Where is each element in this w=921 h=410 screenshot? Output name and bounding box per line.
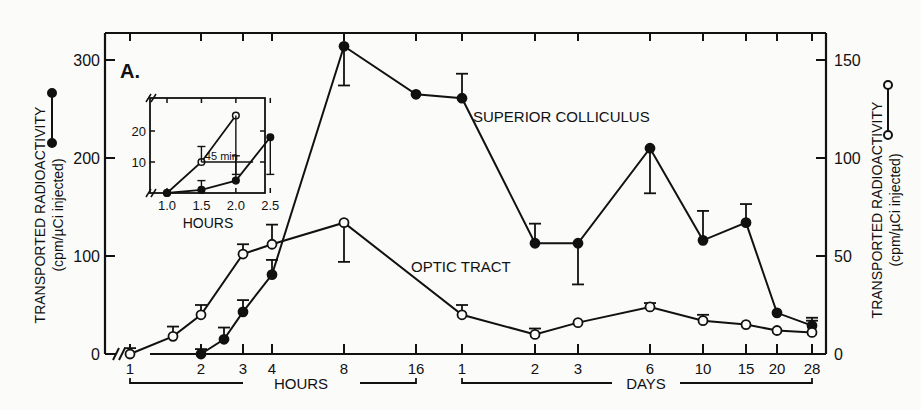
inset-frame	[150, 98, 265, 193]
x-tick-label: 2	[197, 360, 205, 377]
data-point	[458, 310, 467, 319]
x-tick-label: 16	[408, 360, 425, 377]
series-line	[201, 46, 812, 354]
inset-y-label: 10	[132, 155, 146, 170]
left-tick-label: 300	[73, 52, 100, 69]
data-point	[574, 239, 583, 248]
panel-label: A.	[120, 60, 140, 82]
inset-x-label: 2.5	[261, 198, 279, 213]
inset-x-label: 1.0	[158, 198, 176, 213]
data-point	[197, 310, 206, 319]
x-tick-label: 3	[239, 360, 247, 377]
left-axis-title: TRANSPORTED RADIOACTIVITY (cpm/µCi injec…	[32, 106, 66, 323]
x-tick-label: 15	[738, 360, 755, 377]
inset-x-label: 1.5	[192, 198, 210, 213]
data-point	[699, 236, 708, 245]
x-tick-label: 2	[531, 360, 539, 377]
filled-marker-key	[48, 89, 56, 147]
x-tick-label: 20	[769, 360, 786, 377]
data-point	[239, 307, 248, 316]
data-point	[340, 42, 349, 51]
open-marker-key	[884, 81, 892, 139]
inset-break-marks	[146, 94, 156, 197]
data-point	[412, 90, 421, 99]
right-tick-label: 150	[834, 52, 861, 69]
data-point	[268, 270, 277, 279]
data-point	[773, 326, 782, 335]
inset-chart: 1.01.52.02.51020HOURS45 min	[132, 94, 280, 231]
days-label: DAYS	[626, 375, 666, 392]
inset-point	[164, 190, 171, 197]
x-tick-label: 1	[126, 360, 134, 377]
right-tick-label: 100	[834, 150, 861, 167]
superior-colliculus-series	[195, 42, 818, 359]
optic-tract-label: OPTIC TRACT	[411, 258, 511, 275]
series-line	[130, 223, 812, 354]
right-axis-title-line2: (cpm/µCi injected)	[887, 153, 903, 266]
inset-sc-line	[167, 137, 270, 193]
inset-y-label: 20	[132, 124, 146, 139]
data-point	[574, 318, 583, 327]
left-tick-label: 200	[73, 150, 100, 167]
right-axis-title-line1: TRANSPORTED RADIOACTIVITY	[869, 101, 885, 318]
left-tick-label: 0	[91, 346, 100, 363]
data-point	[340, 218, 349, 227]
data-point	[197, 350, 206, 359]
hours-label: HOURS	[274, 375, 328, 392]
left-axis-title-line2: (cpm/µCi injected)	[50, 158, 66, 271]
right-axis-ticks: 050100150	[816, 52, 861, 363]
data-point	[458, 94, 467, 103]
x-tick-label: 8	[340, 360, 348, 377]
left-axis-ticks: 0100200300	[73, 52, 115, 363]
data-point	[268, 240, 277, 249]
superior-colliculus-label: SUPERIOR COLLICULUS	[473, 108, 650, 125]
right-tick-label: 0	[834, 346, 843, 363]
x-tick-label: 1	[458, 360, 466, 377]
transport-chart: 0100200300 050100150 1234816123610152028…	[0, 0, 921, 410]
left-axis-title-line1: TRANSPORTED RADIOACTIVITY	[32, 106, 48, 323]
right-tick-label: 50	[834, 248, 852, 265]
data-point	[126, 350, 135, 359]
inset-x-label: 2.0	[227, 198, 245, 213]
data-point	[808, 328, 817, 337]
data-point	[742, 218, 751, 227]
x-tick-label: 28	[804, 360, 821, 377]
data-point	[773, 308, 782, 317]
left-tick-label: 100	[73, 248, 100, 265]
data-point	[239, 250, 248, 259]
data-point	[742, 320, 751, 329]
data-point	[531, 239, 540, 248]
x-tick-label: 3	[574, 360, 582, 377]
inset-annotation: 45 min	[205, 150, 238, 162]
data-point	[699, 316, 708, 325]
data-point	[169, 332, 178, 341]
x-tick-label: 10	[695, 360, 712, 377]
data-point	[220, 335, 229, 344]
inset-xlabel: HOURS	[183, 215, 234, 231]
data-point	[646, 144, 655, 153]
data-point	[646, 302, 655, 311]
data-point	[531, 330, 540, 339]
